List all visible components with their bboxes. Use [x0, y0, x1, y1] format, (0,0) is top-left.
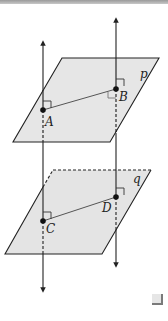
point-A — [40, 107, 46, 113]
label-D: D — [101, 201, 112, 215]
point-B — [113, 86, 119, 92]
label-plane-p: p — [140, 67, 148, 81]
geometry-diagram: A B C D p q — [0, 0, 168, 321]
end-of-proof-icon — [152, 294, 163, 305]
point-C — [40, 218, 46, 224]
label-A: A — [44, 115, 54, 129]
plane-q — [5, 170, 151, 254]
plane-p — [13, 58, 159, 142]
point-D — [113, 194, 119, 200]
label-C: C — [46, 222, 55, 236]
label-B: B — [118, 90, 128, 104]
label-plane-q: q — [133, 172, 141, 186]
